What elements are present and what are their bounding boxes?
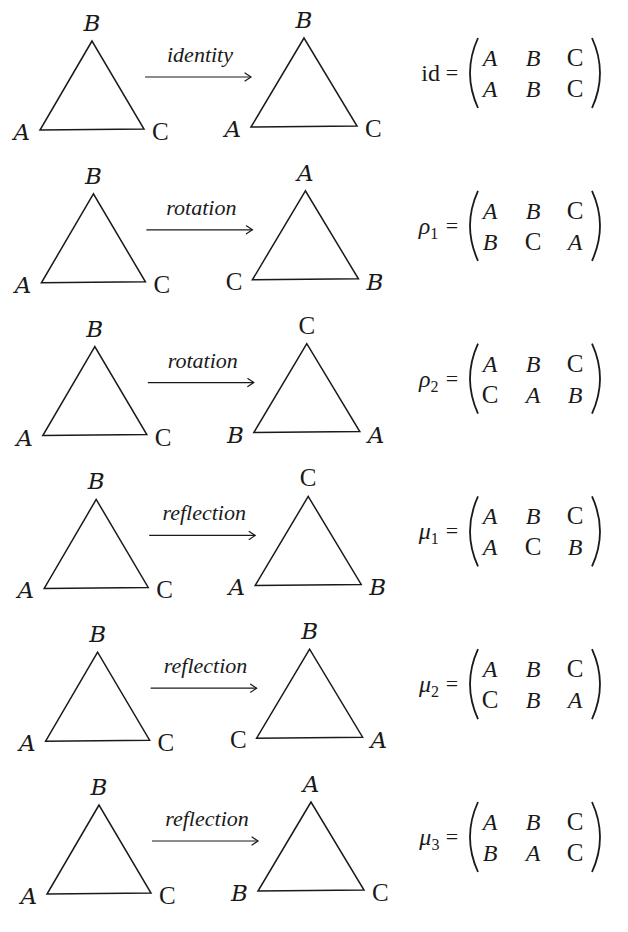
triangle-shape bbox=[46, 652, 150, 741]
vertex-label-right: B bbox=[365, 269, 383, 295]
right-paren bbox=[592, 649, 600, 719]
permutation-name: μ bbox=[418, 824, 431, 850]
left-paren bbox=[470, 802, 478, 872]
matrix-cell-bottom-1: B bbox=[483, 840, 498, 866]
matrix-cell-bottom-3: B bbox=[568, 534, 583, 560]
matrix-cell-bottom-2: B bbox=[526, 687, 541, 713]
left-paren bbox=[470, 191, 478, 261]
transform-arrow: reflection bbox=[152, 806, 258, 845]
matrix-cell-bottom-1: C bbox=[482, 686, 499, 713]
matrix-cell-top-2: B bbox=[526, 45, 541, 71]
vertex-label-left: C bbox=[230, 726, 247, 753]
matrix-cell-bottom-3: B bbox=[568, 382, 583, 408]
matrix-cell-bottom-2: A bbox=[524, 840, 541, 866]
equals-sign: = bbox=[446, 213, 458, 238]
symmetry-row-1: BACidentityBACid=ABCABC bbox=[11, 7, 600, 145]
vertex-label-right: A bbox=[366, 422, 385, 448]
permutation-notation: ρ1=ABCBCA bbox=[418, 191, 600, 261]
matrix-cell-bottom-2: C bbox=[525, 533, 542, 560]
matrix-cell-top-1: A bbox=[481, 656, 498, 682]
matrix-cell-bottom-2: A bbox=[524, 382, 541, 408]
operation-label: identity bbox=[167, 42, 233, 67]
matrix-cell-top-2: B bbox=[526, 198, 541, 224]
matrix-cell-top-1: A bbox=[481, 503, 498, 529]
permutation-name: μ bbox=[418, 671, 431, 697]
equals-sign: = bbox=[446, 518, 458, 543]
triangle-shape bbox=[255, 496, 361, 585]
permutation-notation: ρ2=ABCCAB bbox=[418, 344, 600, 414]
vertex-label-right: C bbox=[372, 879, 389, 906]
matrix-cell-top-3: C bbox=[567, 808, 584, 835]
matrix-cell-bottom-1: A bbox=[481, 534, 498, 560]
matrix-cell-bottom-1: B bbox=[483, 229, 498, 255]
right-paren bbox=[592, 38, 600, 108]
vertex-label-right: C bbox=[158, 729, 175, 756]
matrix-cell-top-1: A bbox=[481, 809, 498, 835]
vertex-label-left: A bbox=[17, 730, 36, 756]
permutation-name: ρ bbox=[418, 213, 431, 239]
equals-sign: = bbox=[446, 671, 458, 696]
permutation-subscript: 1 bbox=[431, 530, 439, 547]
permutation-notation: μ2=ABCCBA bbox=[418, 649, 600, 719]
vertex-label-top: A bbox=[301, 771, 320, 797]
vertex-label-left: A bbox=[18, 883, 37, 909]
permutation-subscript: 2 bbox=[431, 683, 439, 700]
matrix-cell-top-1: A bbox=[481, 45, 498, 71]
vertex-label-right: C bbox=[159, 882, 176, 909]
permutation-notation: μ1=ABCACB bbox=[418, 496, 600, 566]
operation-label: rotation bbox=[166, 195, 236, 220]
left-paren bbox=[470, 649, 478, 719]
transform-arrow: rotation bbox=[148, 348, 254, 387]
permutation-subscript: 3 bbox=[431, 836, 439, 853]
operation-label: reflection bbox=[162, 500, 246, 525]
vertex-label-right: C bbox=[156, 576, 173, 603]
vertex-label-top: B bbox=[83, 10, 101, 36]
matrix-cell-bottom-2: C bbox=[525, 228, 542, 255]
vertex-label-right: C bbox=[365, 115, 382, 142]
matrix-cell-top-1: A bbox=[481, 198, 498, 224]
permutation-name: μ bbox=[418, 518, 431, 544]
vertex-label-right: C bbox=[152, 118, 169, 145]
triangle-shape bbox=[41, 194, 145, 283]
matrix-cell-top-3: C bbox=[567, 197, 584, 224]
left-paren bbox=[470, 38, 478, 108]
equals-sign: = bbox=[446, 60, 458, 85]
vertex-label-top: A bbox=[295, 160, 314, 186]
left-paren bbox=[470, 496, 478, 566]
vertex-label-left: A bbox=[14, 425, 33, 451]
matrix-cell-top-2: B bbox=[526, 809, 541, 835]
vertex-label-right: C bbox=[155, 424, 172, 451]
vertex-label-top: B bbox=[90, 774, 108, 800]
triangle-shape bbox=[43, 347, 147, 436]
triangle-shape bbox=[40, 41, 144, 130]
right-paren bbox=[592, 496, 600, 566]
operation-label: reflection bbox=[164, 653, 248, 678]
matrix-cell-bottom-1: A bbox=[481, 76, 498, 102]
equals-sign: = bbox=[446, 366, 458, 391]
permutation-notation: μ3=ABCBAC bbox=[418, 802, 600, 872]
vertex-label-left: B bbox=[226, 422, 244, 448]
triangle-shape bbox=[254, 344, 360, 433]
right-paren bbox=[592, 802, 600, 872]
transform-arrow: reflection bbox=[151, 653, 257, 692]
vertex-label-right: B bbox=[368, 574, 386, 600]
triangle-shape bbox=[44, 499, 148, 588]
vertex-label-left: A bbox=[222, 116, 241, 142]
matrix-cell-top-2: B bbox=[526, 656, 541, 682]
matrix-cell-top-3: C bbox=[567, 44, 584, 71]
vertex-label-top: B bbox=[295, 7, 313, 33]
vertex-label-top: C bbox=[300, 464, 317, 491]
equals-sign: = bbox=[446, 824, 458, 849]
triangle-shape bbox=[258, 802, 364, 891]
vertex-label-top: B bbox=[88, 621, 106, 647]
transform-arrow: reflection bbox=[149, 500, 255, 539]
matrix-cell-bottom-3: A bbox=[566, 687, 583, 713]
matrix-cell-top-2: B bbox=[526, 503, 541, 529]
vertex-label-left: C bbox=[226, 268, 243, 295]
symmetry-row-4: BACreflectionCABμ1=ABCACB bbox=[16, 464, 600, 603]
vertex-label-left: B bbox=[230, 880, 248, 906]
right-paren bbox=[592, 191, 600, 261]
symmetry-row-2: BACrotationACBρ1=ABCBCA bbox=[13, 160, 600, 298]
vertex-label-right: C bbox=[153, 271, 170, 298]
transform-arrow: identity bbox=[145, 42, 251, 81]
